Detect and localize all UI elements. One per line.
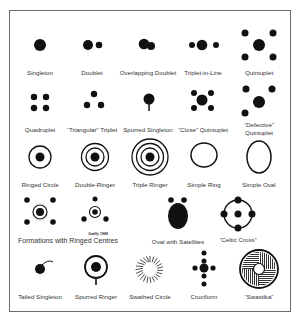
label-tailed-singleton: Tailed Singleton bbox=[18, 293, 62, 301]
doublet-icon bbox=[83, 40, 102, 50]
label-cruciform: Cruciform bbox=[191, 293, 218, 301]
label-simple-ring: Simple Ring bbox=[187, 181, 220, 189]
spurred-singleton-icon bbox=[144, 94, 155, 112]
double-ringer-icon bbox=[82, 144, 109, 171]
ringed-centre-formation-a-icon bbox=[24, 197, 56, 225]
label-close-quintuplet: “Close” Quintuplet bbox=[178, 126, 228, 134]
label-doublet: Doublet bbox=[81, 69, 102, 77]
label-quadruplet: Quadruplet bbox=[25, 126, 56, 134]
defective-quintuplet-icon bbox=[242, 86, 276, 117]
label-swathed-circle: Swathed Circle bbox=[129, 293, 171, 301]
ringed-centre-formation-b-icon bbox=[81, 197, 108, 222]
label-singleton: Singleton bbox=[27, 69, 53, 77]
singleton-icon bbox=[34, 39, 46, 51]
label-defective-quintuplet: “Defective”Quintuplet bbox=[244, 121, 274, 137]
cruciform-icon bbox=[192, 251, 215, 287]
label-spurred-ringer: Spurred Ringer bbox=[75, 293, 117, 301]
label-triplet-in-line: Triplet-in-Line bbox=[184, 69, 222, 77]
label-oval-with-satellites: Oval with Satellites bbox=[152, 238, 204, 246]
oval-with-satellites-icon bbox=[168, 197, 188, 229]
credit-gadfly: Gadfly 1988 bbox=[88, 232, 108, 236]
swastika-icon bbox=[240, 250, 278, 288]
tailed-singleton-icon bbox=[35, 261, 53, 274]
label-formations-ringed-centres: Formations with Ringed Centres bbox=[18, 237, 118, 246]
swathed-circle-icon bbox=[136, 256, 164, 283]
label-celtic-cross: “Celtic Cross” bbox=[219, 236, 256, 244]
overlapping-doublet-icon bbox=[139, 39, 155, 50]
close-quintuplet-icon bbox=[191, 90, 214, 111]
simple-oval-icon bbox=[247, 141, 271, 173]
quintuplet-icon bbox=[242, 30, 277, 61]
label-ringed-circle: Ringed Circle bbox=[21, 181, 58, 189]
label-quintuplet: Quintuplet bbox=[245, 69, 273, 77]
triple-ringer-icon bbox=[132, 139, 168, 175]
label-simple-oval: Simple Oval bbox=[242, 181, 275, 189]
spurred-ringer-icon bbox=[85, 256, 107, 285]
triplet-in-line-icon bbox=[189, 40, 219, 51]
quadruplet-icon bbox=[31, 94, 49, 111]
label-double-ringer: Double-Ringer bbox=[75, 181, 115, 189]
crop-circle-formations-diagram bbox=[0, 0, 302, 321]
label-triangular-triplet: “Triangular” Triplet bbox=[67, 126, 117, 134]
simple-ring-icon bbox=[191, 143, 217, 167]
label-overlapping-doublet: Overlapping Doublet bbox=[120, 69, 176, 77]
celtic-cross-icon bbox=[221, 197, 256, 232]
label-spurred-singleton: Spurred Singleton bbox=[123, 126, 173, 134]
ringed-circle-icon bbox=[29, 146, 51, 168]
label-triple-ringer: Triple Ringer bbox=[132, 181, 167, 189]
label-swastika: “Swastika” bbox=[245, 293, 274, 301]
triangular-triplet-icon bbox=[84, 91, 104, 108]
